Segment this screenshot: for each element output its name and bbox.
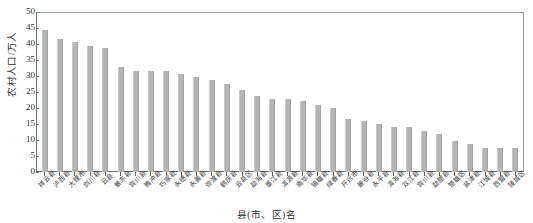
x-axis-label-slot: 永德县 <box>174 176 189 206</box>
x-axis-label-slot: 洱源县 <box>280 176 295 206</box>
y-axis-tick-label: 5 <box>3 149 35 162</box>
bar <box>497 148 503 172</box>
x-axis-label-slot: 景东县 <box>113 176 128 206</box>
bar-slot <box>356 13 371 172</box>
bar <box>391 127 397 172</box>
bar-slot <box>462 13 477 172</box>
bar <box>239 90 245 172</box>
bar-slot <box>310 13 325 172</box>
x-axis-label-slot: 泸西县 <box>52 176 67 206</box>
y-axis-tick-label: 40 <box>3 37 35 50</box>
x-axis-label-slot: 洱海县 <box>386 176 401 206</box>
bar-slot <box>174 13 189 172</box>
bar-slot <box>280 13 295 172</box>
x-axis-label-slot: 巧家县 <box>159 176 174 206</box>
bar <box>87 46 93 172</box>
y-axis-tick-label: 50 <box>3 5 35 18</box>
bar <box>209 80 215 172</box>
x-axis-label-slot: 云县 <box>98 176 113 206</box>
bar-slot <box>295 13 310 172</box>
bar <box>285 99 291 172</box>
x-axis-label-slot: 景谷县 <box>356 176 371 206</box>
bar <box>72 42 78 172</box>
x-axis-label-slot: 勐腊县 <box>432 176 447 206</box>
bar <box>315 105 321 172</box>
x-axis-label-slot: 剑川县 <box>83 176 98 206</box>
bar <box>467 144 473 172</box>
y-axis-tick-label: 15 <box>3 117 35 130</box>
bar <box>376 124 382 172</box>
bar <box>345 119 351 172</box>
bar-slot <box>98 13 113 172</box>
bar-slot <box>159 13 174 172</box>
bar-slot <box>143 13 158 172</box>
bar-slot <box>67 13 82 172</box>
x-axis-label-slot: 永善县 <box>189 176 204 206</box>
x-axis-label-slot: 江城县 <box>477 176 492 206</box>
x-axis-label-slot: 鹤庆县 <box>219 176 234 206</box>
bar-slot <box>52 13 67 172</box>
x-axis-labels: 祥云县泸西县大理市剑川县云县景东县宾川县腾冲县巧家县永德县永善县弥渡县鹤庆县云县… <box>37 176 523 206</box>
bar-slot <box>265 13 280 172</box>
bar <box>193 77 199 172</box>
bar-slot <box>447 13 462 172</box>
x-axis-label-slot: 开远市 <box>341 176 356 206</box>
bar <box>452 141 458 172</box>
bar <box>224 84 230 172</box>
x-axis-label-slot: 勐海县 <box>250 176 265 206</box>
bar <box>436 134 442 172</box>
bar-slot <box>204 13 219 172</box>
y-axis-tick-label: 10 <box>3 133 35 146</box>
x-axis-label-slot: 祥云县 <box>37 176 52 206</box>
bar-slot <box>128 13 143 172</box>
bar-slot <box>402 13 417 172</box>
bar-slot <box>432 13 447 172</box>
bar <box>57 39 63 172</box>
bar <box>42 30 48 172</box>
x-axis-label-slot: 绿春县 <box>326 176 341 206</box>
bar-slot <box>113 13 128 172</box>
y-axis-tick-label: 25 <box>3 85 35 98</box>
bar <box>254 96 260 172</box>
bar <box>163 71 169 172</box>
x-axis-label-slot: 楚雄区 <box>447 176 462 206</box>
y-axis-tick-label: 0 <box>3 165 35 178</box>
x-axis-label-slot: 云县区 <box>234 176 249 206</box>
bar-slot <box>341 13 356 172</box>
x-axis-label-slot: 腾冲县 <box>143 176 158 206</box>
bar <box>102 48 108 172</box>
bar-slot <box>83 13 98 172</box>
x-axis-label-slot: 西盟县 <box>493 176 508 206</box>
y-axis-tick-label: 20 <box>3 101 35 114</box>
bar <box>512 148 518 172</box>
x-axis-label-slot: 宾川县 <box>417 176 432 206</box>
x-axis-label-slot: 镇雄县 <box>310 176 325 206</box>
bar-slot <box>37 13 52 172</box>
bar <box>361 121 367 172</box>
bar-slot <box>371 13 386 172</box>
x-axis-label-slot: 永平县 <box>371 176 386 206</box>
bar-chart: 农村人口/万人 05101520253035404550 祥云县泸西县大理市剑川… <box>0 0 533 223</box>
x-axis-label-slot: 盐津县 <box>462 176 477 206</box>
x-axis-label-slot: 南华县 <box>295 176 310 206</box>
x-axis-label-slot: 大理市 <box>67 176 82 206</box>
bar-slot <box>250 13 265 172</box>
bar <box>482 148 488 172</box>
y-axis-tick-label: 45 <box>3 21 35 34</box>
bar-slot <box>417 13 432 172</box>
bar-slot <box>189 13 204 172</box>
bar-series <box>37 13 523 172</box>
bar <box>269 99 275 172</box>
bar-slot <box>326 13 341 172</box>
bar <box>300 101 306 172</box>
bar-slot <box>477 13 492 172</box>
y-axis-tick-label: 35 <box>3 53 35 66</box>
x-axis-label-slot: 宾川县 <box>128 176 143 206</box>
x-axis-title: 县(市、区)名 <box>0 207 533 221</box>
x-axis-label-slot: 陵城区 <box>508 176 523 206</box>
x-axis-label-slot: 双江县 <box>402 176 417 206</box>
bar-slot <box>386 13 401 172</box>
bar <box>178 74 184 172</box>
bar-slot <box>493 13 508 172</box>
bar <box>421 131 427 172</box>
